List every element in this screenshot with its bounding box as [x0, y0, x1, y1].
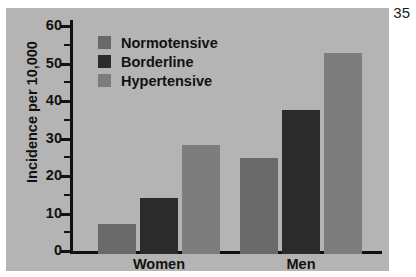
y-tick-label: 20 [24, 168, 62, 183]
chart-legend: Normotensive Borderline Hypertensive [98, 34, 218, 91]
x-axis-label: Women [98, 256, 220, 272]
x-axis-label: Men [240, 256, 362, 272]
legend-swatch-borderline [98, 55, 111, 68]
legend-swatch-normotensive [98, 36, 111, 49]
y-tick-major [61, 250, 70, 253]
legend-label-borderline: Borderline [121, 54, 194, 70]
y-tick-major [61, 175, 70, 178]
y-tick-major [61, 25, 70, 28]
y-tick-label: 60 [24, 18, 62, 33]
y-tick-label: 50 [24, 56, 62, 71]
y-tick-major [61, 100, 70, 103]
legend-swatch-hypertensive [98, 74, 111, 87]
y-tick-major [61, 63, 70, 66]
legend-label-hypertensive: Hypertensive [121, 73, 212, 89]
page-number: 35 [393, 4, 410, 21]
y-tick-major [61, 213, 70, 216]
legend-item: Normotensive [98, 34, 218, 51]
legend-label-normotensive: Normotensive [121, 35, 218, 51]
y-tick-label: 10 [24, 206, 62, 221]
y-tick-major [61, 138, 70, 141]
y-tick-label: 0 [24, 243, 62, 258]
y-tick-label: 30 [24, 131, 62, 146]
legend-item: Borderline [98, 53, 218, 70]
legend-item: Hypertensive [98, 72, 218, 89]
y-tick-label: 40 [24, 93, 62, 108]
chart-figure: Incidence per 10,000 0102030405060 Women… [6, 8, 389, 271]
